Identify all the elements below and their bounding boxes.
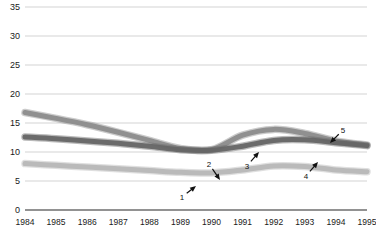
x-tick-label: 1984	[16, 217, 35, 227]
x-tick-label: 1990	[202, 217, 221, 227]
x-tick-label: 1986	[78, 217, 97, 227]
x-tick-label: 1988	[140, 217, 159, 227]
gridlines	[25, 7, 367, 210]
x-tick-label: 1992	[264, 217, 283, 227]
x-tick-label: 1993	[295, 217, 314, 227]
annotation-label-2: 2	[207, 160, 211, 169]
y-tick-label: 20	[10, 89, 20, 99]
annotation-label-4: 4	[304, 172, 308, 181]
x-tick-label: 1991	[233, 217, 252, 227]
x-tick-label: 1995	[358, 217, 376, 227]
x-tick-label: 1994	[326, 217, 345, 227]
annotation-label-3: 3	[245, 162, 249, 171]
x-axis-tick-labels: 1984198519861987198819891990199119921993…	[0, 213, 374, 231]
y-tick-label: 10	[10, 147, 20, 157]
y-axis-tick-labels: 05101520253035	[0, 0, 20, 234]
annotation-label-1: 1	[180, 193, 184, 202]
x-tick-label: 1989	[171, 217, 190, 227]
y-tick-label: 35	[10, 2, 20, 12]
annotation-arrow	[187, 186, 196, 193]
x-tick-label: 1987	[109, 217, 128, 227]
y-tick-label: 25	[10, 60, 20, 70]
y-tick-label: 30	[10, 31, 20, 41]
annotation-label-5: 5	[341, 126, 345, 135]
annotation-arrow	[251, 152, 259, 161]
y-tick-label: 5	[15, 176, 20, 186]
series-1-line	[25, 113, 367, 151]
y-tick-label: 15	[10, 118, 20, 128]
x-tick-label: 1985	[47, 217, 66, 227]
series-2-line	[25, 137, 367, 151]
